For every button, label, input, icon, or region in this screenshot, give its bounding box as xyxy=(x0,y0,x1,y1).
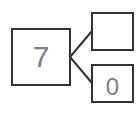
connector-top xyxy=(70,31,92,57)
connector-bottom xyxy=(70,57,92,83)
part-box-bottom: 0 xyxy=(91,64,134,103)
part-value-bottom: 0 xyxy=(106,73,119,101)
part-box-top[interactable] xyxy=(91,12,134,51)
whole-value: 7 xyxy=(33,40,50,74)
whole-box: 7 xyxy=(11,28,71,86)
